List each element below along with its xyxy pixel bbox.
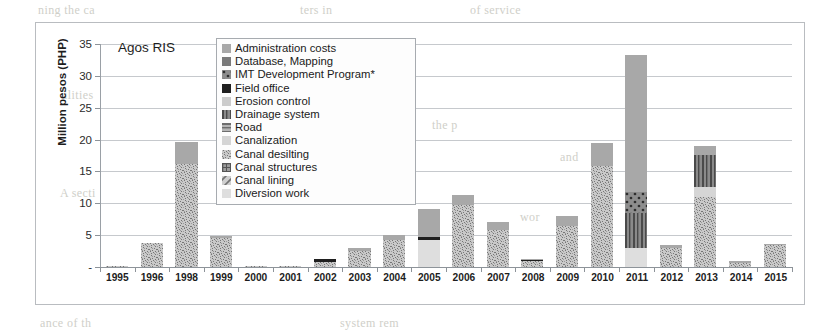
legend-swatch-icon: [222, 163, 231, 172]
bar-segment[interactable]: [175, 142, 197, 164]
bar-segment[interactable]: [487, 230, 509, 267]
bar-segment[interactable]: [694, 187, 716, 197]
x-axis-tick-label: 2001: [273, 272, 308, 292]
bar-slot: [446, 44, 481, 267]
legend-item-label: Diversion work: [235, 187, 309, 200]
bar-segment[interactable]: [418, 209, 440, 237]
stacked-bar[interactable]: [452, 195, 474, 267]
x-axis-tick-label: 2005: [412, 272, 447, 292]
stacked-bar[interactable]: [418, 209, 440, 267]
x-axis-tick-label: 2009: [551, 272, 586, 292]
stacked-bar[interactable]: [694, 146, 716, 267]
bar-segment[interactable]: [694, 197, 716, 267]
stacked-bar[interactable]: [556, 216, 578, 267]
bar-segment[interactable]: [694, 146, 716, 155]
legend-item-label: IMT Development Program*: [235, 68, 375, 81]
legend-item[interactable]: Administration costs: [222, 42, 410, 55]
legend-item[interactable]: Database, Mapping: [222, 55, 410, 68]
bar-segment[interactable]: [452, 205, 474, 267]
legend-swatch-icon: [222, 57, 231, 66]
stacked-bar[interactable]: [764, 244, 786, 267]
legend-item[interactable]: Canal desilting: [222, 148, 410, 161]
bar-slot: [515, 44, 550, 267]
stacked-bar[interactable]: [348, 248, 370, 267]
stacked-bar[interactable]: [591, 143, 613, 267]
stacked-bar[interactable]: [729, 261, 751, 267]
bar-segment[interactable]: [556, 216, 578, 226]
bar-segment[interactable]: [556, 226, 578, 267]
stacked-bar[interactable]: [175, 142, 197, 268]
stacked-bar[interactable]: [487, 222, 509, 267]
x-axis-tick-label: 1996: [135, 272, 170, 292]
x-axis-labels: 1995199619981999200020012002200320042005…: [100, 272, 793, 292]
stacked-bar[interactable]: [141, 243, 163, 267]
stacked-bar[interactable]: [625, 55, 647, 267]
legend-item[interactable]: Canal lining: [222, 174, 410, 187]
legend-item[interactable]: Erosion control: [222, 95, 410, 108]
bar-segment[interactable]: [106, 266, 128, 267]
bar-segment[interactable]: [625, 192, 647, 212]
y-axis-tick-label: 30: [52, 70, 92, 82]
x-axis-tick-label: 2014: [724, 272, 759, 292]
stacked-bar[interactable]: [279, 266, 301, 267]
y-axis-tick-label: 35: [52, 38, 92, 50]
bar-segment[interactable]: [348, 251, 370, 267]
legend-item[interactable]: Drainage system: [222, 108, 410, 121]
bar-segment[interactable]: [487, 222, 509, 230]
bar-segment[interactable]: [452, 195, 474, 205]
bar-segment[interactable]: [521, 261, 543, 267]
stacked-bar[interactable]: [106, 266, 128, 267]
stacked-bar[interactable]: [245, 266, 267, 267]
bar-segment[interactable]: [591, 166, 613, 267]
bar-segment[interactable]: [625, 213, 647, 248]
bar-segment[interactable]: [660, 248, 682, 267]
y-axis-tick-label: -: [52, 261, 92, 273]
bar-slot: [100, 44, 135, 267]
bar-slot: [688, 44, 723, 267]
stacked-bar[interactable]: [521, 259, 543, 267]
bar-segment[interactable]: [383, 240, 405, 267]
bar-segment[interactable]: [694, 155, 716, 187]
bar-segment[interactable]: [245, 266, 267, 267]
legend-item-label: Canal structures: [235, 161, 317, 174]
bar-segment[interactable]: [729, 263, 751, 267]
bleed-text: of service: [470, 3, 521, 18]
bar-segment[interactable]: [764, 245, 786, 267]
legend-item[interactable]: Canal structures: [222, 161, 410, 174]
bar-segment[interactable]: [210, 238, 232, 267]
chart-title: Agos RIS: [118, 40, 175, 55]
x-axis-tick-label: 1999: [204, 272, 239, 292]
legend-item[interactable]: Road: [222, 121, 410, 134]
legend-item[interactable]: IMT Development Program*: [222, 68, 410, 81]
bar-segment[interactable]: [279, 266, 301, 267]
bleed-text: system rem: [340, 316, 399, 331]
y-axis-tick-label: 10: [52, 197, 92, 209]
legend-swatch-icon: [222, 136, 231, 145]
bar-slot: [169, 44, 204, 267]
legend-item[interactable]: Canalization: [222, 134, 410, 147]
x-axis-tick-label: 2015: [758, 272, 793, 292]
legend-item[interactable]: Field office: [222, 82, 410, 95]
legend-swatch-icon: [222, 110, 231, 119]
bar-segment[interactable]: [175, 164, 197, 267]
legend-item[interactable]: Diversion work: [222, 187, 410, 200]
bar-segment[interactable]: [625, 55, 647, 193]
bar-segment[interactable]: [314, 262, 336, 267]
stacked-bar[interactable]: [383, 235, 405, 267]
bar-segment[interactable]: [141, 243, 163, 267]
bar-slot: [411, 44, 446, 267]
x-axis-tick-label: 2003: [343, 272, 378, 292]
legend-item-label: Database, Mapping: [235, 55, 333, 68]
legend-swatch-icon: [222, 84, 231, 93]
bar-segment[interactable]: [418, 240, 440, 267]
y-axis-tick-label: 25: [52, 102, 92, 114]
bar-series-container: [100, 44, 792, 267]
bar-segment[interactable]: [625, 248, 647, 267]
bar-segment[interactable]: [591, 143, 613, 166]
legend-item-label: Canal desilting: [235, 148, 309, 161]
stacked-bar[interactable]: [660, 245, 682, 267]
stacked-bar[interactable]: [210, 236, 232, 267]
x-axis-tick-label: 2006: [447, 272, 482, 292]
stacked-bar[interactable]: [314, 259, 336, 267]
legend-item-label: Erosion control: [235, 95, 310, 108]
